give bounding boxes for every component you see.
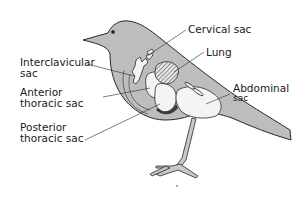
bird-air-sac-diagram: Cervical sac Lung Interclavicular sac Ab… — [0, 0, 306, 199]
foot-dot — [176, 185, 178, 187]
bird-body — [83, 21, 291, 140]
label-interclavicular-2: sac — [20, 67, 38, 79]
bird-eye — [111, 30, 115, 34]
label-abdominal-2: sac — [233, 93, 248, 103]
leader-posterior — [85, 104, 160, 140]
bird-leg — [176, 118, 196, 168]
posterior-thoracic-sac — [155, 83, 177, 112]
label-cervical-sac: Cervical sac — [188, 23, 252, 35]
label-lung: Lung — [206, 46, 232, 58]
label-posterior-2: thoracic sac — [20, 132, 84, 144]
label-anterior-2: thoracic sac — [20, 97, 84, 109]
